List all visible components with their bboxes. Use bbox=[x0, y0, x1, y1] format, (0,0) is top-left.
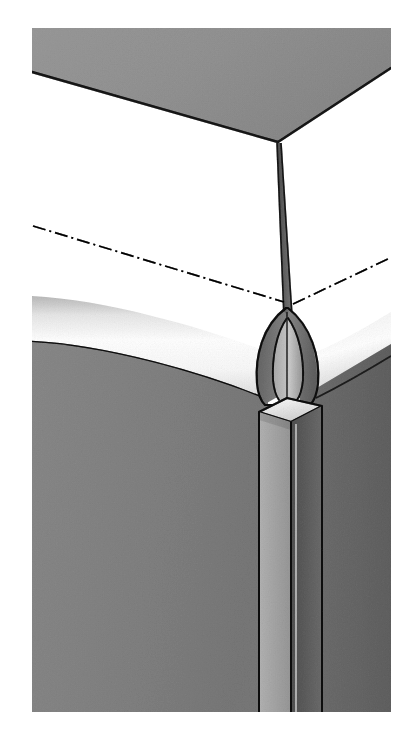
technical-drawing-svg bbox=[0, 0, 405, 745]
margin-bottom bbox=[0, 712, 405, 745]
front-panel-fill bbox=[32, 342, 268, 712]
margin-top bbox=[0, 0, 405, 28]
post-left-face bbox=[259, 412, 291, 712]
front-panel-surface bbox=[32, 342, 268, 712]
margin-left bbox=[0, 0, 32, 745]
margin-right bbox=[391, 0, 405, 745]
figure-root bbox=[0, 0, 405, 745]
